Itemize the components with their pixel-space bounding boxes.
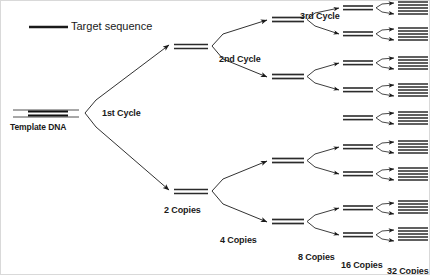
cycle-label-3rd: 3rd Cycle	[300, 12, 340, 21]
duplex	[343, 116, 373, 120]
duplex-bundle	[398, 168, 428, 180]
duplex-bundle	[398, 84, 428, 96]
duplex-bundle	[398, 228, 428, 240]
duplex	[343, 61, 373, 65]
copies-label-16: 16 Copies	[341, 261, 383, 270]
duplex	[343, 206, 373, 210]
cycle2-branch-arrows	[212, 20, 267, 222]
template-dna-duplex	[13, 110, 79, 117]
template-dna-label: Template DNA	[10, 123, 66, 132]
duplex	[343, 32, 373, 36]
duplex	[272, 220, 304, 224]
duplex-bundle	[398, 57, 428, 69]
duplex-bundle	[398, 201, 428, 213]
copies-label-2: 2 Copies	[164, 206, 201, 215]
duplex-bundle	[398, 2, 428, 14]
cycle-label-2nd: 2nd Cycle	[219, 55, 261, 64]
copies-label-4: 4 Copies	[220, 236, 257, 245]
cycle3-branch-arrows	[307, 8, 339, 235]
duplex-bundle	[398, 141, 428, 153]
cycle-label-1st: 1st Cycle	[102, 109, 141, 118]
copies-label-32: 32 Copies	[387, 267, 429, 275]
generation3-duplexes	[343, 6, 373, 237]
duplex-bundle	[398, 28, 428, 40]
generation2-duplexes	[272, 18, 304, 224]
generation3-duplex-extra	[343, 116, 373, 120]
diagram-canvas	[1, 1, 430, 275]
duplex	[343, 233, 373, 237]
pcr-amplification-diagram: Target sequence Template DNA 1st Cycle 2…	[0, 0, 430, 275]
legend-label-target-sequence: Target sequence	[71, 21, 152, 32]
duplex	[343, 145, 373, 149]
duplex	[272, 75, 304, 79]
duplex	[174, 45, 208, 49]
duplex	[343, 172, 373, 176]
duplex	[272, 159, 304, 163]
generation4-branch-arrows	[376, 3, 394, 241]
duplex	[174, 190, 208, 194]
copies-label-8: 8 Copies	[298, 253, 335, 262]
generation1-duplexes	[174, 45, 208, 194]
duplex-bundle	[398, 112, 428, 124]
generation5-dense-stack	[398, 2, 428, 240]
duplex	[343, 6, 373, 10]
duplex	[343, 88, 373, 92]
